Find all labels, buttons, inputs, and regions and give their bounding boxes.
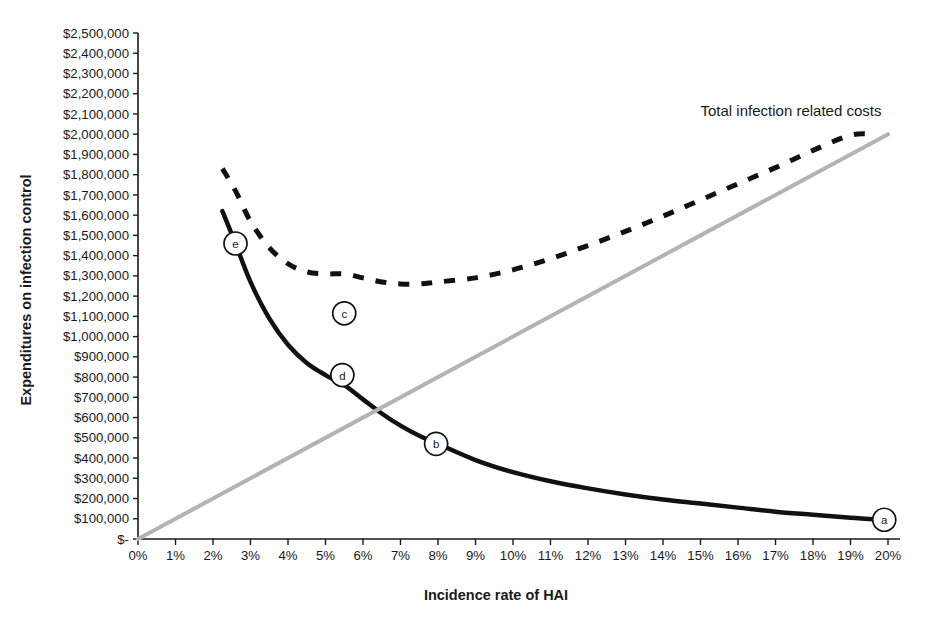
x-tick-label: 17%: [762, 548, 789, 563]
series-layer: [138, 134, 888, 539]
x-tick-label: 19%: [837, 548, 864, 563]
x-tick-label: 12%: [575, 548, 602, 563]
y-tick-label: $2,200,000: [63, 86, 129, 101]
y-tick-label: $1,500,000: [63, 228, 129, 243]
y-tick-label: $1,600,000: [63, 208, 129, 223]
chart-svg: $2,500,000$2,400,000$2,300,000$2,200,000…: [0, 0, 939, 619]
y-tick-label: $1,400,000: [63, 248, 129, 263]
x-tick-label: 14%: [650, 548, 677, 563]
x-tick-label: 20%: [875, 548, 902, 563]
y-tick-label: $500,000: [74, 430, 129, 445]
marker-label-e: e: [232, 238, 238, 250]
x-tick-label: 7%: [391, 548, 410, 563]
x-tick-label: 15%: [687, 548, 714, 563]
y-tick-label: $-: [117, 532, 129, 547]
data-point-marker-d[interactable]: d: [331, 364, 354, 387]
y-tick-label: $2,500,000: [63, 26, 129, 41]
series-line-3: [222, 134, 873, 284]
y-tick-label: $2,300,000: [63, 66, 129, 81]
y-tick-label: $1,900,000: [63, 147, 129, 162]
x-tick-label: 5%: [316, 548, 335, 563]
x-tick-label: 2%: [203, 548, 222, 563]
data-point-marker-c[interactable]: c: [333, 302, 356, 325]
y-tick-label: $900,000: [74, 349, 129, 364]
x-tick-label: 10%: [500, 548, 527, 563]
y-axis-group: $2,500,000$2,400,000$2,300,000$2,200,000…: [63, 26, 138, 547]
marker-label-c: c: [341, 308, 347, 320]
y-tick-label: $1,000,000: [63, 329, 129, 344]
data-point-marker-a[interactable]: a: [873, 508, 896, 531]
x-tick-label: 3%: [241, 548, 260, 563]
x-axis-tick-labels: 0%1%2%3%4%5%6%7%8%9%10%11%12%13%14%15%16…: [128, 548, 901, 563]
x-tick-label: 6%: [353, 548, 372, 563]
marker-label-b: b: [433, 438, 439, 450]
x-axis-title: Incidence rate of HAI: [424, 587, 568, 603]
x-axis-group: 0%1%2%3%4%5%6%7%8%9%10%11%12%13%14%15%16…: [128, 539, 901, 563]
x-tick-label: 8%: [428, 548, 447, 563]
y-tick-label: $300,000: [74, 471, 129, 486]
y-tick-label: $1,200,000: [63, 289, 129, 304]
annotations-layer: Total infection related costs: [701, 102, 882, 119]
x-tick-label: 9%: [466, 548, 485, 563]
y-tick-label: $1,700,000: [63, 188, 129, 203]
data-point-marker-b[interactable]: b: [425, 432, 448, 455]
data-point-markers: abcde: [224, 232, 896, 531]
data-point-marker-e[interactable]: e: [224, 232, 247, 255]
y-tick-label: $1,300,000: [63, 268, 129, 283]
y-tick-label: $400,000: [74, 451, 129, 466]
series-annotation-1: Total infection related costs: [701, 102, 882, 119]
y-tick-label: $600,000: [74, 410, 129, 425]
x-tick-label: 1%: [166, 548, 185, 563]
y-tick-label: $200,000: [74, 491, 129, 506]
y-tick-label: $1,800,000: [63, 167, 129, 182]
x-tick-label: 0%: [128, 548, 147, 563]
y-tick-label: $1,100,000: [63, 309, 129, 324]
y-tick-label: $2,100,000: [63, 107, 129, 122]
x-tick-label: 4%: [278, 548, 297, 563]
series-line-2: [138, 134, 888, 539]
x-tick-label: 18%: [800, 548, 827, 563]
y-tick-label: $2,400,000: [63, 46, 129, 61]
y-tick-label: $2,000,000: [63, 127, 129, 142]
y-tick-label: $100,000: [74, 511, 129, 526]
chart-container: $2,500,000$2,400,000$2,300,000$2,200,000…: [0, 0, 939, 619]
x-axis-ticks: [138, 539, 888, 545]
x-tick-label: 16%: [725, 548, 752, 563]
x-tick-label: 11%: [538, 548, 564, 563]
y-axis-title: Expenditures on infection control: [18, 174, 34, 405]
series-line-1: [222, 211, 884, 520]
x-tick-label: 13%: [612, 548, 639, 563]
y-axis-tick-labels: $2,500,000$2,400,000$2,300,000$2,200,000…: [63, 26, 129, 547]
y-tick-label: $700,000: [74, 390, 129, 405]
marker-label-d: d: [339, 370, 345, 382]
y-tick-label: $800,000: [74, 370, 129, 385]
marker-label-a: a: [881, 514, 888, 526]
